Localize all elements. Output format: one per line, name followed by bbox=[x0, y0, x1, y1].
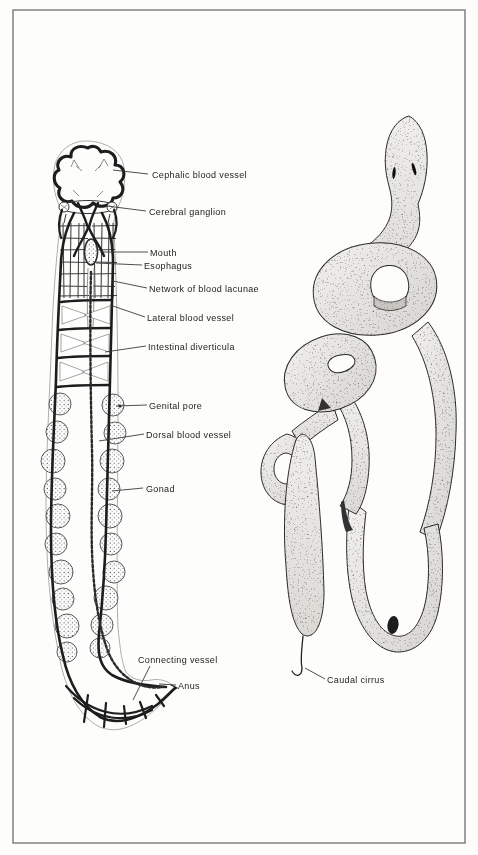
lacuna-line bbox=[60, 226, 89, 227]
label-intestinal-diverticula: Intestinal diverticula bbox=[148, 342, 235, 352]
lacuna-line bbox=[60, 274, 88, 275]
head-veins bbox=[71, 159, 108, 197]
worm-mid-coil bbox=[275, 326, 384, 421]
lacuna-line bbox=[70, 223, 71, 298]
gonad-circle bbox=[103, 561, 125, 583]
lacuna-line bbox=[61, 286, 87, 287]
gonad-circle bbox=[44, 478, 66, 500]
caudal-cirrus bbox=[292, 636, 303, 675]
worm-tail-lobe bbox=[284, 434, 324, 635]
lacuna-line bbox=[64, 214, 66, 223]
label-mouth: Mouth bbox=[150, 248, 177, 258]
label-anus: Anus bbox=[178, 681, 200, 691]
cephalic-blood-vessel bbox=[54, 146, 124, 207]
worm-right-band bbox=[412, 322, 456, 540]
lacuna-line bbox=[101, 223, 102, 298]
right-loop-fold-shadow bbox=[386, 615, 399, 634]
anatomical-plate: Cephalic blood vessel Cerebral ganglion … bbox=[0, 0, 478, 855]
intestinal-diverticula bbox=[57, 300, 112, 387]
gonad-circle bbox=[100, 449, 124, 473]
lacuna-line bbox=[108, 214, 110, 223]
mouth bbox=[85, 239, 98, 265]
label-lateral-blood-vessel: Lateral blood vessel bbox=[147, 313, 234, 323]
label-gonad: Gonad bbox=[146, 484, 175, 494]
gonad-circle bbox=[98, 504, 122, 528]
label-esophagus: Esophagus bbox=[144, 261, 192, 271]
worm-big-coil bbox=[309, 237, 442, 341]
label-cephalic-blood-vessel: Cephalic blood vessel bbox=[152, 170, 247, 180]
lacuna-line bbox=[60, 296, 89, 297]
label-cerebral-ganglion: Cerebral ganglion bbox=[149, 207, 226, 217]
gonad-circle bbox=[100, 533, 122, 555]
label-genital-pore: Genital pore bbox=[149, 401, 202, 411]
label-network-of-blood-lacunae: Network of blood lacunae bbox=[149, 284, 259, 294]
lacuna-line bbox=[92, 226, 117, 227]
gonad-circle bbox=[46, 504, 70, 528]
right-figure-coiled-worm bbox=[261, 116, 456, 652]
gonad-circle bbox=[46, 421, 68, 443]
label-connecting-vessel: Connecting vessel bbox=[138, 655, 218, 665]
lacuna-line bbox=[63, 223, 64, 298]
coil-hole-inner-band bbox=[374, 296, 406, 311]
gonad-circle bbox=[45, 533, 67, 555]
gonad-circle bbox=[49, 393, 71, 415]
label-dorsal-blood-vessel: Dorsal blood vessel bbox=[146, 430, 231, 440]
worm-central-band bbox=[336, 398, 369, 514]
label-caudal-cirrus: Caudal cirrus bbox=[327, 675, 385, 685]
plate-artwork bbox=[0, 0, 478, 855]
lacuna-line bbox=[61, 262, 89, 263]
lacuna-line bbox=[60, 250, 87, 251]
gonad-circle bbox=[98, 478, 120, 500]
dorsal-blood-vessel bbox=[90, 272, 163, 688]
